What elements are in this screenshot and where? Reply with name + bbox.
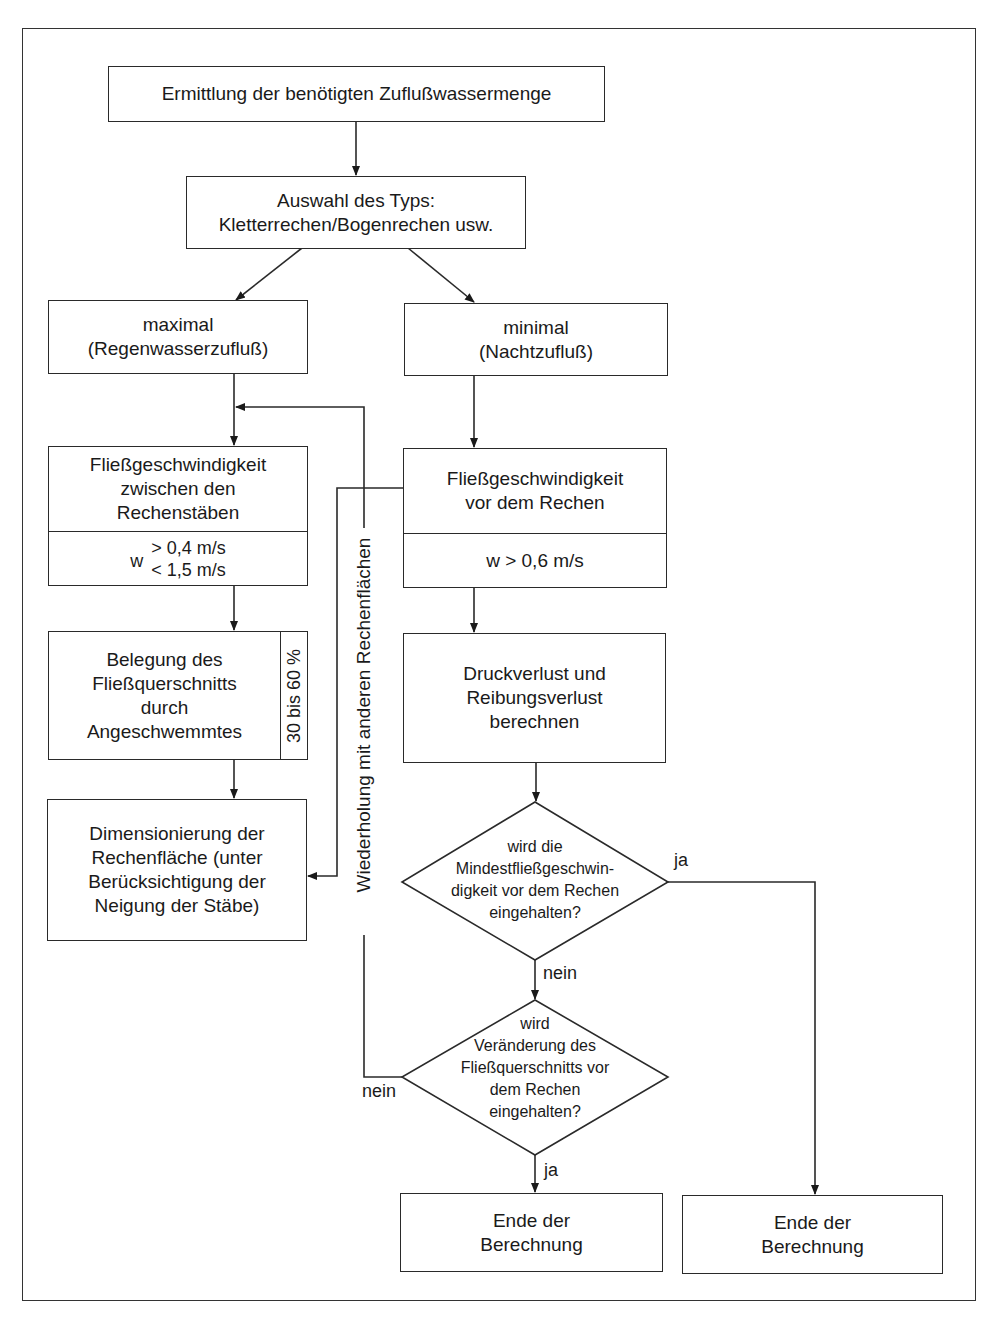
blockage-percentage: 30 bis 60 % <box>282 648 306 742</box>
dimensioning-label: Dimensionierung der Rechenfläche (unter … <box>88 822 265 918</box>
end-left-label: Ende der Berechnung <box>480 1209 582 1257</box>
dimensioning-box: Dimensionierung der Rechenfläche (unter … <box>47 799 307 941</box>
velocity-lower-limit: > 0,4 m/s <box>151 537 226 559</box>
decision2-yes-label: ja <box>544 1160 558 1181</box>
end-box-right: Ende der Berechnung <box>682 1195 943 1274</box>
end-right-label: Ende der Berechnung <box>761 1211 863 1259</box>
max-flow-box: maximal (Regenwasserzufluß) <box>48 300 308 374</box>
min-flow-box: minimal (Nachtzufluß) <box>404 303 668 376</box>
max-flow-label: maximal (Regenwasserzufluß) <box>88 313 269 361</box>
decision1-label: wird die Mindestfließgeschwin- digkeit v… <box>435 836 635 924</box>
start-label: Ermittlung der benötigten Zuflußwasserme… <box>162 82 552 106</box>
losses-box: Druckverlust und Reibungsverlust berechn… <box>403 633 666 763</box>
right-velocity-box: Fließgeschwindigkeit vor dem Rechen w > … <box>403 448 667 588</box>
type-selection-label: Auswahl des Typs: Kletterrechen/Bogenrec… <box>219 189 494 237</box>
decision2-no-label: nein <box>362 1081 396 1102</box>
velocity-upper-limit: < 1,5 m/s <box>151 559 226 581</box>
losses-label: Druckverlust und Reibungsverlust berechn… <box>463 662 606 734</box>
right-velocity-label: Fließgeschwindigkeit vor dem Rechen <box>404 449 666 534</box>
decision1-no-label: nein <box>543 963 577 984</box>
end-box-left: Ende der Berechnung <box>400 1193 663 1272</box>
blockage-label: Belegung des Fließquerschnitts durch Ang… <box>87 648 242 744</box>
left-velocity-box: Fließgeschwindigkeit zwischen den Rechen… <box>48 446 308 586</box>
right-velocity-condition: w > 0,6 m/s <box>486 549 584 573</box>
velocity-range: w > 0,4 m/s < 1,5 m/s <box>130 537 226 581</box>
loop-label: Wiederholung mit anderen Rechenflächen <box>353 538 375 893</box>
velocity-var: w <box>130 550 143 572</box>
decision2-label: wird Veränderung des Fließquerschnitts v… <box>435 1013 635 1123</box>
blockage-percentage-cell: 30 bis 60 % <box>280 632 307 759</box>
type-selection-box: Auswahl des Typs: Kletterrechen/Bogenrec… <box>186 176 526 249</box>
blockage-box: Belegung des Fließquerschnitts durch Ang… <box>48 631 308 760</box>
left-velocity-label: Fließgeschwindigkeit zwischen den Rechen… <box>49 447 307 532</box>
start-box: Ermittlung der benötigten Zuflußwasserme… <box>108 66 605 122</box>
min-flow-label: minimal (Nachtzufluß) <box>479 316 593 364</box>
decision1-yes-label: ja <box>674 850 688 871</box>
